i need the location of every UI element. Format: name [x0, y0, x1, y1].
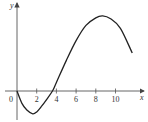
x-tick-label: 4 — [54, 95, 58, 104]
chart-canvas: 246810 0 x y — [0, 0, 148, 122]
y-axis-label: y — [9, 1, 14, 10]
x-tick-label: 10 — [112, 95, 120, 104]
x-tick-label: 8 — [94, 95, 98, 104]
x-axis-label: x — [139, 93, 144, 102]
x-tick-label: 6 — [74, 95, 78, 104]
line-chart: 246810 0 x y — [0, 0, 148, 122]
x-tick-label: 2 — [35, 95, 39, 104]
x-tick-labels: 246810 — [35, 95, 120, 104]
origin-label: 0 — [9, 95, 13, 104]
